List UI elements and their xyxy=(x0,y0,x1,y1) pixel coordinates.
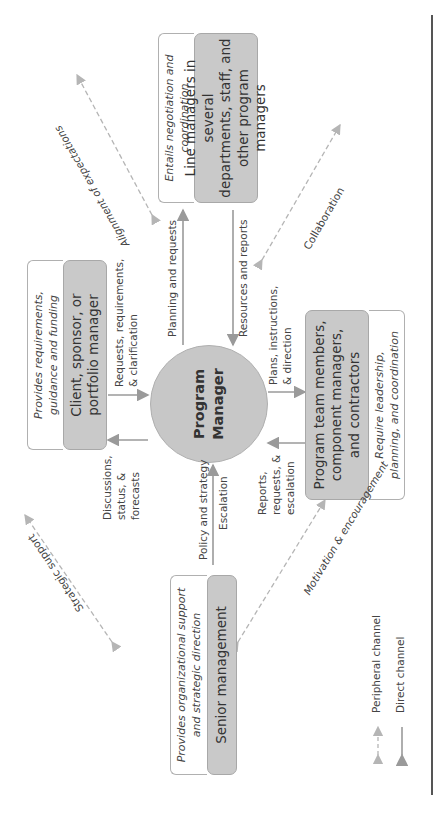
line-managers-node: Line managers in several departments, st… xyxy=(194,33,258,203)
label-pm-to-team: Plans, instructions, & direction xyxy=(266,286,294,385)
diagram-canvas: Program Manager Provides requirements, g… xyxy=(0,0,441,815)
label-pm-to-client: Discussions, status, & forecasts xyxy=(100,455,142,520)
client-node: Client, sponsor, or portfolio manager xyxy=(63,260,107,450)
legend-direct: Direct channel xyxy=(394,637,406,719)
senior-management-node: Senior management xyxy=(207,575,237,775)
label-team-to-pm: Reports, requests, & escalation xyxy=(255,455,297,515)
label-line-to-pm: Resources and reports xyxy=(236,219,250,337)
senior-management-note: Provides organizational support and stra… xyxy=(170,575,207,775)
program-manager-node: Program Manager xyxy=(150,345,268,463)
label-pm-to-senior: Escalation xyxy=(216,476,230,530)
legend-peripheral: Peripheral channel xyxy=(370,615,382,719)
label-pm-to-line: Planning and requests xyxy=(165,220,179,337)
bottom-rule xyxy=(431,15,433,795)
program-team-node: Program team members, component managers… xyxy=(305,310,369,500)
label-client-to-pm: Requests, requirements, & clarification xyxy=(112,259,140,387)
client-note: Provides requirements, guidance and fund… xyxy=(27,260,63,450)
label-senior-to-pm: Policy and strategy xyxy=(196,460,210,560)
